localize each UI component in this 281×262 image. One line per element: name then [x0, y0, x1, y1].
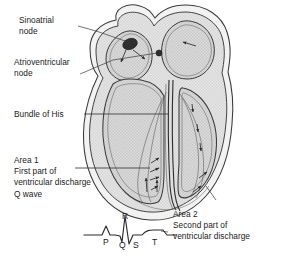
- atrium-right-chamber: [162, 21, 215, 79]
- ecg-trace: [84, 216, 176, 244]
- label-area-2: Area 2 Second part of ventricular discha…: [173, 209, 250, 243]
- label-area-1: Area 1 First part of ventricular dischar…: [14, 155, 91, 200]
- ecg-label-p-wave: P: [103, 238, 109, 247]
- ecg-label-s-wave: S: [133, 241, 139, 250]
- label-bundle-of-his: Bundle of His: [14, 109, 64, 120]
- label-sinoatrial-node: Sinoatrial node: [19, 15, 54, 37]
- ecg-label-t-wave: T: [152, 238, 157, 247]
- ecg-label-r-wave: R: [122, 212, 128, 221]
- cardiac-conduction-figure: Sinoatrial node Atrioventricular node Bu…: [0, 0, 281, 262]
- ecg-label-q-wave: Q: [119, 241, 126, 250]
- label-atrioventricular-node: Atrioventricular node: [14, 57, 70, 79]
